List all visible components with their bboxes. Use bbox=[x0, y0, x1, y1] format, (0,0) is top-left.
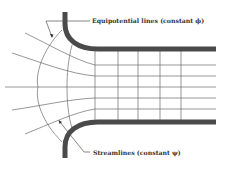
flow-net-diagram: Equipotential lines (constant ϕ) Streaml… bbox=[0, 0, 227, 170]
streamline-4 bbox=[12, 98, 216, 110]
equipotential-label: Equipotential lines (constant ϕ) bbox=[92, 17, 204, 25]
streamline-2 bbox=[12, 53, 216, 76]
streamline-label: Streamlines (constant ψ) bbox=[93, 149, 181, 157]
equipotential-1 bbox=[37, 30, 62, 142]
equipotential-arrow-icon bbox=[50, 34, 54, 38]
